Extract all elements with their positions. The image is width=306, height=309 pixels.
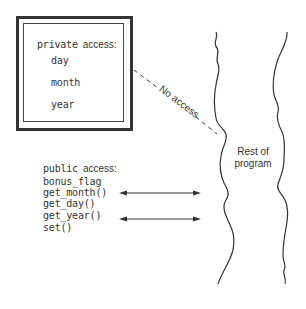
public-access-label: access: (83, 163, 117, 174)
diagram-canvas: private access: day month year No access… (0, 0, 306, 309)
arrow-get-year (119, 217, 201, 222)
rest-of-program-label: Rest of program (223, 146, 283, 170)
no-access-dashed-line-start (134, 70, 158, 88)
arrow-get-month (119, 191, 201, 196)
public-member-set: set() (43, 222, 72, 233)
public-member-bonus-flag: bonus_flag (43, 176, 101, 187)
public-member-get-day: get_day() (43, 198, 95, 209)
rest-of-program-line1: Rest of (223, 146, 283, 158)
public-member-get-month: get_month() (43, 187, 107, 198)
rest-of-program-line2: program (223, 158, 283, 170)
no-access-dashed-line-end (196, 117, 217, 134)
public-access-heading: public access: (43, 158, 117, 176)
public-member-get-year: get_year() (43, 210, 101, 221)
public-keyword: public (43, 163, 78, 174)
